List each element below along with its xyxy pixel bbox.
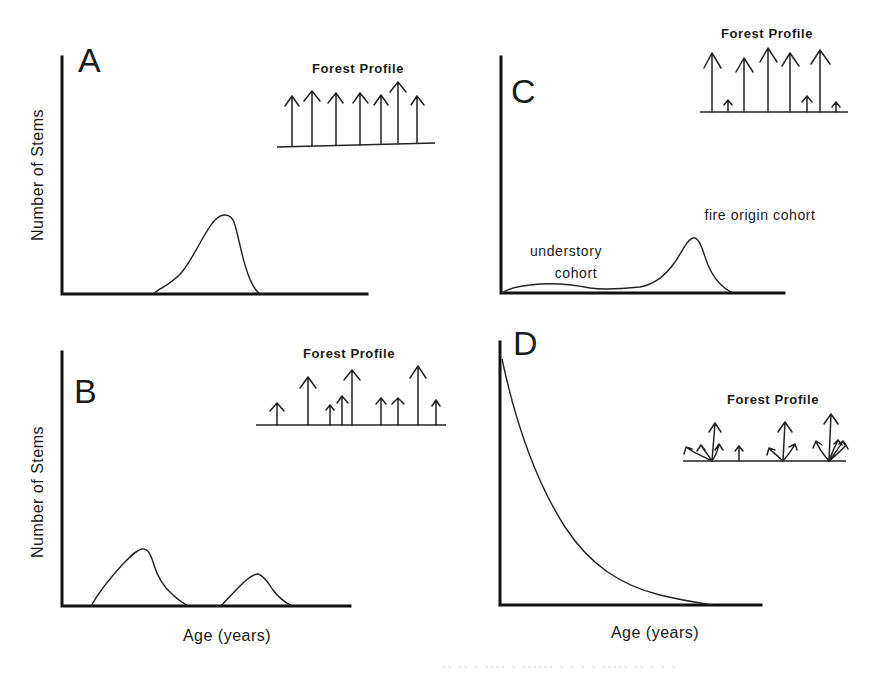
panel-d-axes [500,342,761,605]
panel-a-profile-title: Forest Profile [312,61,404,76]
understory-label-line1: understory [530,243,602,259]
panel-b-profile-title: Forest Profile [303,346,395,361]
panel-a-letter: A [78,41,101,79]
panel-d-x-axis-label: Age (years) [611,624,699,641]
panel-b-x-axis-label: Age (years) [183,627,271,644]
figure-canvas: A Number of Stems Forest Profile C under… [0,0,872,673]
y-axis-label-top: Number of Stems [29,109,46,241]
panel-d-reverse-j-curve [502,359,713,605]
panel-b-axes [62,352,350,606]
panel-a-distribution-curve [153,215,260,294]
y-axis-label-bottom: Number of Stems [29,426,46,558]
panel-c-letter: C [511,72,536,110]
panel-d-letter: D [513,324,538,362]
tree-icons [285,82,424,146]
panel-b-letter: B [74,372,97,410]
panel-a-forest-profile: Forest Profile [277,61,435,147]
panel-a: A Number of Stems Forest Profile [29,41,435,294]
ground-line [277,143,435,147]
panel-d-profile-title: Forest Profile [727,392,819,407]
panel-b-forest-profile: Forest Profile [256,346,446,425]
tree-icons [270,366,440,425]
tree-icons [704,48,840,112]
fire-origin-cohort-label: fire origin cohort [704,207,815,223]
panel-a-axes [62,57,367,294]
panel-b: B Number of Stems Age (years) Forest Pro… [29,346,446,644]
panel-d-forest-profile: Forest Profile [683,392,848,461]
caption-fragment: .. .. . .... . ...... . . . . ..... .. .… [443,657,678,671]
tree-icons [684,414,848,461]
panel-b-distribution-curve-2 [221,574,292,606]
panel-c-profile-title: Forest Profile [721,26,813,41]
panel-c-forest-profile: Forest Profile [700,26,848,112]
panel-b-distribution-curve-1 [91,549,188,606]
panel-d: D Age (years) Forest Profile [500,324,848,641]
panel-c: C understory cohort fire origin cohort F… [501,26,848,293]
understory-label-line2: cohort [555,265,598,281]
